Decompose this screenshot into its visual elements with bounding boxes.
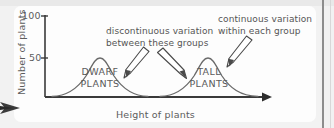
x-axis-arrowhead-icon bbox=[262, 93, 272, 102]
annotation-discontinuous-variation: discontinuous variation between these gr… bbox=[106, 25, 213, 49]
annotation-arrow-right bbox=[227, 36, 252, 67]
figure-screenshot: 100 50 Number of plants Height of plants… bbox=[0, 0, 334, 128]
curve-label-tall-line2: PLANTS bbox=[182, 78, 236, 90]
annotation-arrow-left bbox=[124, 47, 149, 78]
annotation-discontinuous-line2: between these groups bbox=[106, 37, 213, 49]
curve-label-tall-plants: TALL PLANTS bbox=[182, 66, 236, 90]
annotation-continuous-line2: within each group bbox=[218, 25, 312, 37]
annotation-continuous-variation: continuous variation within each group bbox=[218, 13, 312, 37]
y-axis-title: Number of plants bbox=[17, 9, 27, 95]
annotation-continuous-line1: continuous variation bbox=[218, 13, 312, 25]
x-axis-title: Height of plants bbox=[116, 110, 195, 120]
curve-label-dwarf-plants: DWARF PLANTS bbox=[73, 66, 127, 90]
curve-label-tall-line1: TALL bbox=[182, 66, 236, 78]
curve-label-dwarf-line2: PLANTS bbox=[73, 78, 127, 90]
annotation-discontinuous-line1: discontinuous variation bbox=[106, 25, 213, 37]
curve-label-dwarf-line1: DWARF bbox=[73, 66, 127, 78]
y-tick-label-50: 50 bbox=[29, 53, 42, 63]
